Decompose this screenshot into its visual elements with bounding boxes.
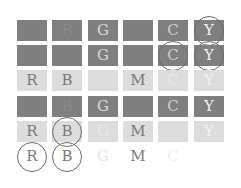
- grid-cell-r3-c1: R: [17, 70, 47, 91]
- grid-cell-r1-c5: C: [158, 20, 188, 41]
- cell-letter: M: [130, 73, 145, 88]
- cell-letter: M: [130, 149, 145, 164]
- grid-cell-r4-c4: [123, 96, 153, 117]
- cell-letter: C: [167, 149, 178, 164]
- cell-letter: C: [167, 48, 178, 63]
- cell-letter: M: [130, 124, 145, 139]
- grid-cell-r2-c1: [17, 45, 47, 66]
- grid-cell-r5-c6: Y: [194, 121, 224, 142]
- cell-letter: C: [167, 73, 178, 88]
- grid-cell-r3-c5: C: [158, 70, 188, 91]
- cell-letter: Y: [204, 124, 214, 139]
- grid-cell-r4-c3: G: [88, 96, 118, 117]
- cell-letter: G: [97, 99, 109, 114]
- grid-cell-r2-c2: [52, 45, 82, 66]
- grid-cell-r1-c2: B: [52, 20, 82, 41]
- grid-cell-r5-c2: B: [52, 121, 82, 142]
- grid-cell-r4-c5: C: [158, 96, 188, 117]
- grid-cell-r3-c3: [88, 70, 118, 91]
- grid-cell-r6-c2: B: [52, 146, 82, 167]
- cell-letter: Y: [204, 23, 214, 38]
- cell-letter: B: [61, 149, 72, 164]
- grid-cell-r6-c6: [194, 146, 224, 167]
- grid-cell-r5-c5: [158, 121, 188, 142]
- grid-cell-r6-c1: R: [17, 146, 47, 167]
- grid-cell-r5-c3: G: [88, 121, 118, 142]
- cell-letter: C: [167, 99, 178, 114]
- cell-letter: R: [26, 149, 37, 164]
- cell-letter: G: [97, 149, 109, 164]
- grid-cell-r3-c4: M: [123, 70, 153, 91]
- grid-cell-r2-c6: Y: [194, 45, 224, 66]
- grid-cell-r6-c5: C: [158, 146, 188, 167]
- grid-cell-r1-c4: [123, 20, 153, 41]
- grid-cell-r2-c5: C: [158, 45, 188, 66]
- grid-cell-r2-c3: G: [88, 45, 118, 66]
- cell-letter: Y: [204, 48, 214, 63]
- grid-cell-r6-c4: M: [123, 146, 153, 167]
- cell-letter: R: [26, 124, 37, 139]
- grid-cell-r5-c4: M: [123, 121, 153, 142]
- cell-letter: B: [61, 99, 72, 114]
- grid-cell-r3-c6: Y: [194, 70, 224, 91]
- cell-letter: B: [61, 73, 72, 88]
- cell-letter: B: [61, 124, 72, 139]
- cell-letter: B: [61, 23, 72, 38]
- cell-letter: Y: [204, 73, 214, 88]
- grid-cell-r1-c3: G: [88, 20, 118, 41]
- cell-letter: G: [97, 23, 109, 38]
- grid-cell-r4-c6: Y: [194, 96, 224, 117]
- letter-grid: BGCYGCYRBMCYBGCYRBGMYRBGMC: [0, 0, 241, 188]
- cell-letter: Y: [204, 99, 214, 114]
- grid-cell-r6-c3: G: [88, 146, 118, 167]
- cell-letter: R: [26, 73, 37, 88]
- cell-letter: G: [97, 48, 109, 63]
- grid-cell-r2-c4: [123, 45, 153, 66]
- grid-cell-r1-c1: [17, 20, 47, 41]
- cell-letter: G: [97, 124, 109, 139]
- grid-cell-r3-c2: B: [52, 70, 82, 91]
- grid-cell-r5-c1: R: [17, 121, 47, 142]
- grid-cell-r1-c6: Y: [194, 20, 224, 41]
- grid-cell-r4-c1: [17, 96, 47, 117]
- grid-cell-r4-c2: B: [52, 96, 82, 117]
- cell-letter: C: [167, 23, 178, 38]
